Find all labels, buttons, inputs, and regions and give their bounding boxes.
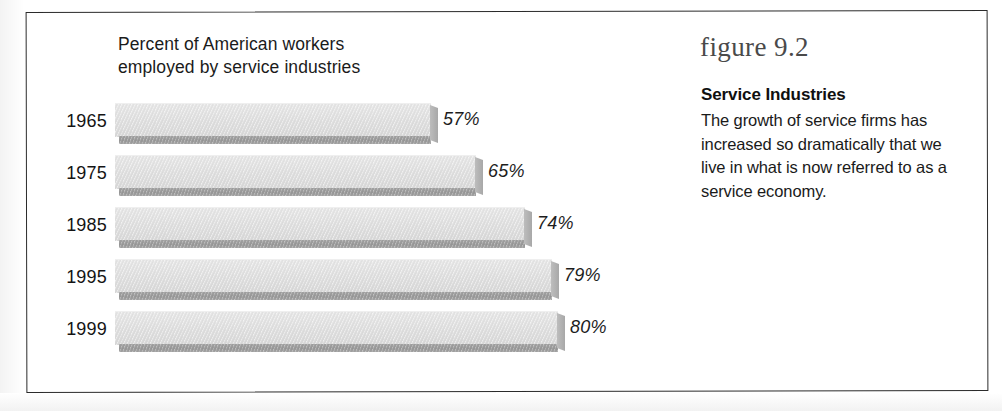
- bar-value-label: 57%: [443, 109, 480, 130]
- bar-face: [115, 103, 431, 137]
- bar-1965: [115, 103, 431, 147]
- bar-face: [115, 311, 558, 345]
- scan-edge-left: [0, 0, 24, 411]
- bar-end-cap: [551, 261, 559, 299]
- bar-row: 1999 80%: [26, 311, 666, 363]
- figure-number: figure 9.2: [700, 32, 809, 63]
- bar-category-label: 1965: [26, 111, 107, 132]
- chart-panel: Percent of American workers employed by …: [26, 11, 666, 392]
- bar-row: 1985 74%: [26, 207, 666, 259]
- bar-category-label: 1995: [26, 267, 107, 288]
- scan-edge-bottom: [0, 393, 1002, 411]
- figure-page: Percent of American workers employed by …: [0, 0, 1002, 411]
- bar-face: [115, 155, 476, 189]
- bar-end-cap: [557, 313, 565, 351]
- bar-end-cap: [430, 105, 438, 143]
- bar-value-label: 79%: [564, 265, 601, 286]
- bar-row: 1965 57%: [26, 103, 666, 155]
- bar-row: 1995 79%: [26, 259, 666, 311]
- bar-bottom-edge: [119, 240, 525, 248]
- bar-bottom-edge: [119, 188, 476, 196]
- bar-category-label: 1975: [26, 163, 107, 184]
- caption-heading: Service Industries: [701, 85, 846, 105]
- caption-body-text: The growth of service firms has increase…: [701, 109, 947, 203]
- bar-bottom-edge: [119, 344, 558, 352]
- bar-end-cap: [475, 157, 483, 195]
- bar-value-label: 80%: [570, 317, 607, 338]
- bar-face: [115, 259, 552, 293]
- bar-category-label: 1999: [26, 319, 107, 340]
- bar-1999: [115, 311, 558, 355]
- chart-title: Percent of American workers employed by …: [118, 33, 518, 79]
- bar-value-label: 74%: [537, 213, 574, 234]
- bar-category-label: 1985: [26, 215, 107, 236]
- bar-face: [115, 207, 525, 241]
- bar-value-label: 65%: [488, 161, 525, 182]
- bar-end-cap: [524, 209, 532, 247]
- bar-1975: [115, 155, 476, 199]
- bar-bottom-edge: [119, 292, 552, 300]
- bar-chart-plot-area: 1965 57% 1975 65% 1985: [26, 103, 666, 363]
- bar-1995: [115, 259, 552, 303]
- caption-panel: figure 9.2 Service Industries The growth…: [700, 11, 970, 392]
- bar-row: 1975 65%: [26, 155, 666, 207]
- bar-1985: [115, 207, 525, 251]
- bar-bottom-edge: [119, 136, 431, 144]
